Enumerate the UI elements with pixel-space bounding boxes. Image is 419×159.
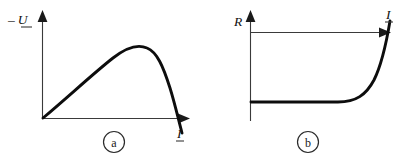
panel-b-curve — [251, 21, 390, 102]
panel-b-y-axis — [246, 10, 256, 121]
panel-a-curve — [43, 46, 182, 133]
panel-b-tag-text: b — [305, 136, 311, 150]
panel-a-x-axis — [43, 114, 191, 124]
panel-a-y-axis-label-symbol: U — [18, 12, 29, 27]
svg-text:–U: –U — [7, 12, 29, 27]
panel-b-y-axis-label: R — [233, 14, 243, 29]
panel-b-tag: b — [298, 132, 319, 153]
panel-b-x-axis-label-symbol: I — [385, 7, 392, 22]
panel-a-y-axis-label-sign: – — [7, 12, 15, 27]
panel-b-x-axis-label: I — [385, 7, 393, 22]
panel-a-y-axis — [38, 10, 48, 119]
panel-a-tag: a — [104, 132, 125, 153]
panel-a: –U I a — [0, 0, 210, 159]
panel-b: R I b — [210, 0, 419, 159]
panel-b-y-axis-arrowhead — [246, 10, 256, 22]
panel-a-tag-text: a — [111, 136, 117, 150]
panel-a-y-axis-arrowhead — [38, 10, 48, 22]
panel-b-x-axis — [251, 28, 392, 38]
panel-a-y-axis-label: –U — [7, 12, 32, 27]
figure-container: –U I a R I — [0, 0, 419, 159]
